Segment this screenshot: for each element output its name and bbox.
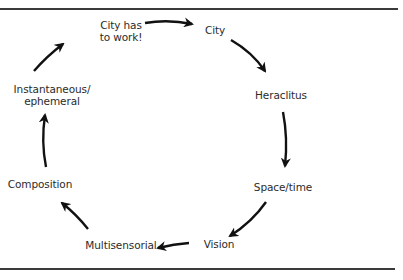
node-instantaneous-ephemeral: Instantaneous/ ephemeral: [14, 83, 91, 107]
node-vision: Vision: [204, 238, 235, 250]
node-label-line: Heraclitus: [255, 89, 307, 101]
arrow-vision-to-multisensorial: [158, 243, 189, 248]
bottom-rule: [0, 268, 395, 270]
node-label-line: Vision: [204, 238, 235, 250]
arrow-heraclitus-to-space-time: [283, 112, 286, 166]
arrow-multisensorial-to-composition: [62, 203, 88, 229]
arrow-instantaneous-to-city-has-to-work: [34, 44, 63, 71]
node-space-time: Space/time: [254, 181, 312, 193]
node-multisensorial: Multisensorial: [85, 239, 156, 251]
node-label-line: City has: [100, 19, 143, 31]
arrow-composition-to-instantaneous: [43, 115, 46, 167]
node-label-line: to work!: [100, 31, 143, 43]
node-city: City: [205, 24, 225, 36]
node-heraclitus: Heraclitus: [255, 89, 307, 101]
arrow-city-to-heraclitus: [231, 40, 265, 71]
node-label-line: Instantaneous/: [14, 83, 91, 95]
arrow-city-has-to-work-to-city: [145, 21, 192, 24]
node-label-line: ephemeral: [14, 95, 91, 107]
node-label-line: City: [205, 24, 225, 36]
arrow-space-time-to-vision: [230, 202, 266, 236]
node-label-line: Multisensorial: [85, 239, 156, 251]
cycle-arrows: [0, 0, 403, 280]
node-label-line: Composition: [8, 178, 72, 190]
node-composition: Composition: [8, 178, 72, 190]
node-city-has-to-work: City has to work!: [100, 19, 143, 43]
node-label-line: Space/time: [254, 181, 312, 193]
